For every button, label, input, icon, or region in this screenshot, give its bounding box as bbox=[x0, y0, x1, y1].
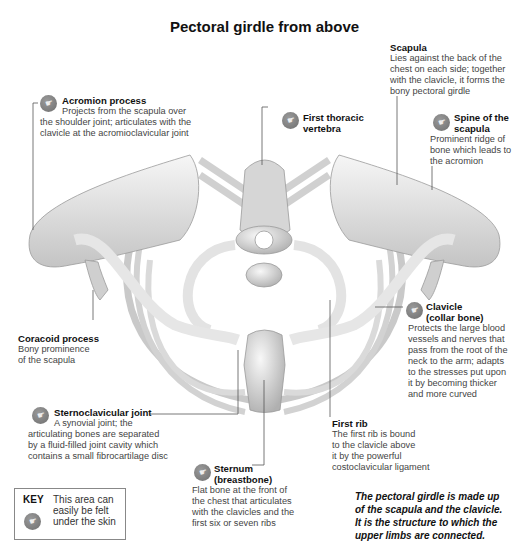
summary-line-4: upper limbs are connected. bbox=[355, 529, 529, 542]
acromion-desc-3: clavicle at the acromioclavicular joint bbox=[40, 128, 270, 139]
clavicle-desc-7: and more curved bbox=[408, 389, 529, 400]
sternum-heading-2: (breastbone) bbox=[192, 474, 322, 485]
first-rib-desc-4: costoclavicular ligament bbox=[332, 462, 462, 473]
scapula-desc-4: bony pectoral girdle bbox=[390, 86, 529, 97]
coracoid-heading: Coracoid process bbox=[18, 333, 138, 344]
spine-desc-2: bone which leads to bbox=[430, 145, 529, 156]
sternum-heading-1: Sternum bbox=[192, 463, 322, 474]
sternum-desc-2: the chest that articulates bbox=[192, 496, 322, 507]
clavicle-desc-6: it by becoming thicker bbox=[408, 378, 529, 389]
summary-line-1: The pectoral girdle is made up bbox=[355, 490, 529, 503]
label-first-thoracic-vertebra: First thoracic vertebra bbox=[303, 112, 383, 134]
sternoclavicular-desc-1: A synovial joint; the bbox=[28, 418, 188, 429]
acromion-desc-1: Projects from the scapula over bbox=[40, 106, 270, 117]
sternoclavicular-desc-4: contains a small fibrocartilage disc bbox=[28, 451, 188, 462]
first-thoracic-heading-2: vertebra bbox=[303, 123, 383, 134]
first-thoracic-heading-1: First thoracic bbox=[303, 112, 383, 123]
summary-line-3: It is the structure to which the bbox=[355, 516, 529, 529]
palpable-hand-icon: ☛ bbox=[282, 112, 299, 129]
acromion-desc-2: the shoulder joint; articulates with the bbox=[40, 117, 270, 128]
first-rib-heading: First rib bbox=[332, 418, 462, 429]
label-sternoclavicular-joint: Sternoclavicular joint A synovial joint;… bbox=[28, 407, 188, 462]
label-spine-of-scapula: Spine of the scapula Prominent ridge of … bbox=[430, 112, 529, 167]
legend-key: KEY ☛ This area can easily be felt under… bbox=[14, 488, 126, 540]
first-rib-desc-1: The first rib is bound bbox=[332, 429, 462, 440]
scapula-desc-2: chest on each side; together bbox=[390, 64, 529, 75]
summary-line-2: of the scapula and the clavicle. bbox=[355, 503, 529, 516]
clavicle-heading-2: (collar bone) bbox=[408, 312, 529, 323]
first-rib-desc-2: to the clavicle above bbox=[332, 440, 462, 451]
label-scapula: Scapula Lies against the back of the che… bbox=[390, 42, 529, 97]
key-title: KEY bbox=[23, 494, 44, 505]
key-text: This area can easily be felt under the s… bbox=[53, 494, 116, 527]
sternoclavicular-desc-2: articulating bones are separated bbox=[28, 429, 188, 440]
sternoclavicular-heading: Sternoclavicular joint bbox=[28, 407, 188, 418]
scapula-heading: Scapula bbox=[390, 42, 529, 53]
spine-desc-3: the acromion bbox=[430, 156, 529, 167]
scapula-desc-1: Lies against the back of the bbox=[390, 53, 529, 64]
sternum-desc-1: Flat bone at the front of bbox=[192, 485, 322, 496]
clavicle-desc-4: neck to the arm; adapts bbox=[408, 356, 529, 367]
sternum-desc-3: with the clavicles and the bbox=[192, 507, 322, 518]
sternum-desc-4: first six or seven ribs bbox=[192, 518, 322, 529]
scapula-desc-3: with the clavicle, it forms the bbox=[390, 75, 529, 86]
clavicle-desc-2: vessels and nerves that bbox=[408, 334, 529, 345]
key-line-2: easily be felt bbox=[53, 505, 116, 516]
label-first-rib: First rib The first rib is bound to the … bbox=[332, 418, 462, 473]
label-clavicle: Clavicle (collar bone) Protects the larg… bbox=[408, 301, 529, 400]
label-acromion-process: Acromion process Projects from the scapu… bbox=[40, 95, 270, 139]
label-sternum: Sternum (breastbone) Flat bone at the fr… bbox=[192, 463, 322, 529]
clavicle-desc-1: Protects the large blood bbox=[408, 323, 529, 334]
summary-text: The pectoral girdle is made up of the sc… bbox=[355, 490, 529, 542]
clavicle-desc-3: pass from the root of the bbox=[408, 345, 529, 356]
clavicle-heading-1: Clavicle bbox=[408, 301, 529, 312]
spine-heading-1: Spine of the bbox=[430, 112, 529, 123]
key-line-1: This area can bbox=[53, 494, 116, 505]
coracoid-desc-1: Bony prominence bbox=[18, 344, 138, 355]
spine-heading-2: scapula bbox=[430, 123, 529, 134]
acromion-heading: Acromion process bbox=[40, 95, 270, 106]
coracoid-desc-2: of the scapula bbox=[18, 355, 138, 366]
palpable-hand-icon: ☛ bbox=[24, 513, 41, 530]
label-coracoid-process: Coracoid process Bony prominence of the … bbox=[18, 333, 138, 366]
clavicle-desc-5: to the stresses put upon bbox=[408, 367, 529, 378]
spine-desc-1: Prominent ridge of bbox=[430, 134, 529, 145]
sternoclavicular-desc-3: by a fluid-filled joint cavity which bbox=[28, 440, 188, 451]
first-rib-desc-3: it by the powerful bbox=[332, 451, 462, 462]
key-line-3: under the skin bbox=[53, 516, 116, 527]
